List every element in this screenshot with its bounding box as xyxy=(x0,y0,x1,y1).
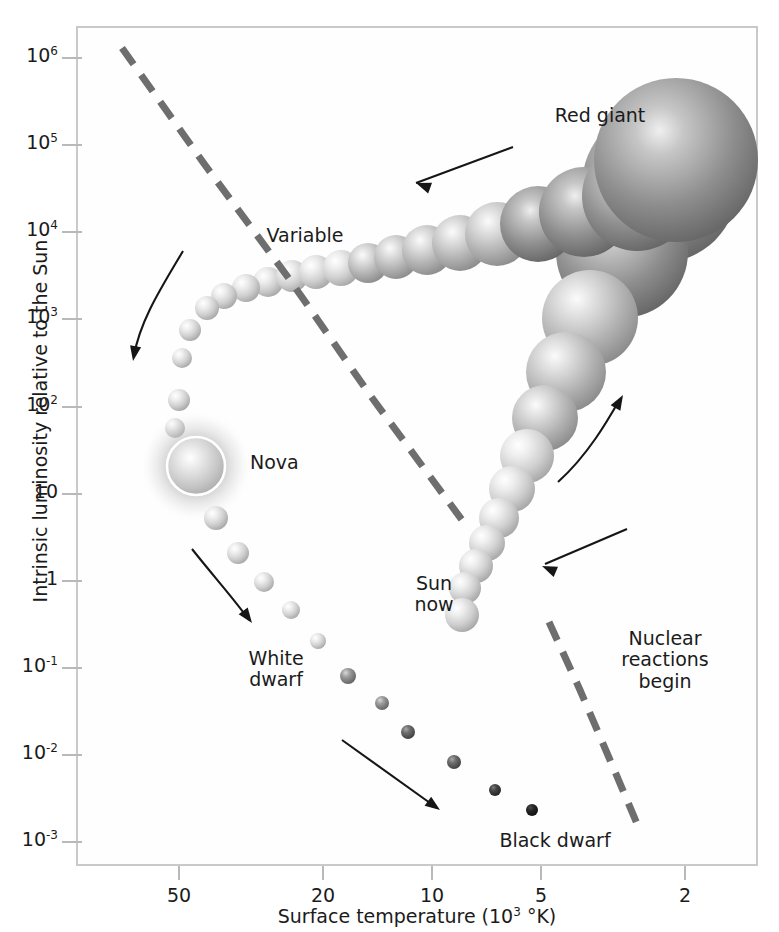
y-tick-exponent-1: 5 xyxy=(50,131,58,145)
y-tick-4 xyxy=(62,406,82,408)
x-axis-title-tail: °K) xyxy=(521,905,556,927)
annotation-red-giant: Red giant xyxy=(0,105,779,126)
y-tick-3 xyxy=(62,318,82,320)
annotation-black-dwarf: Black dwarf xyxy=(0,830,779,851)
annotation-nova: Nova xyxy=(250,452,299,473)
x-tick-3 xyxy=(540,866,542,880)
y-tick-0 xyxy=(62,57,82,59)
x-axis-title-main: Surface temperature (10 xyxy=(278,905,513,927)
x-tick-label-2: 10 xyxy=(407,884,457,906)
x-tick-label-1: 20 xyxy=(298,884,348,906)
y-tick-label-8: 10-2 xyxy=(0,741,58,763)
x-tick-0 xyxy=(178,866,180,880)
y-tick-5 xyxy=(62,493,82,495)
annotation-sun-now: Sun now xyxy=(0,573,779,616)
annotation-variable: Variable xyxy=(0,225,610,246)
y-tick-label-0: 106 xyxy=(0,44,58,66)
y-tick-mantissa-0: 10 xyxy=(26,44,50,66)
x-tick-2 xyxy=(431,866,433,880)
y-tick-mantissa-1: 10 xyxy=(26,131,50,153)
annotation-white-dwarf: White dwarf xyxy=(0,648,552,691)
x-tick-label-0: 50 xyxy=(154,884,204,906)
y-tick-exponent-0: 6 xyxy=(50,44,58,58)
y-tick-8 xyxy=(62,754,82,756)
y-tick-exponent-3: 3 xyxy=(50,305,58,319)
x-tick-label-4: 2 xyxy=(660,884,710,906)
x-axis-title: Surface temperature (103 °K) xyxy=(76,905,758,927)
plot-frame xyxy=(76,26,758,866)
y-tick-label-1: 105 xyxy=(0,131,58,153)
y-tick-exponent-4: 2 xyxy=(50,393,58,407)
y-tick-mantissa-8: 10 xyxy=(22,741,46,763)
figure-canvas: 10610510410310210110-110-210-3 50201052 … xyxy=(0,0,779,932)
x-tick-1 xyxy=(322,866,324,880)
x-tick-label-3: 5 xyxy=(516,884,566,906)
y-tick-1 xyxy=(62,144,82,146)
x-tick-4 xyxy=(684,866,686,880)
y-tick-exponent-8: -2 xyxy=(46,741,58,755)
x-axis-title-exponent: 3 xyxy=(513,905,521,919)
